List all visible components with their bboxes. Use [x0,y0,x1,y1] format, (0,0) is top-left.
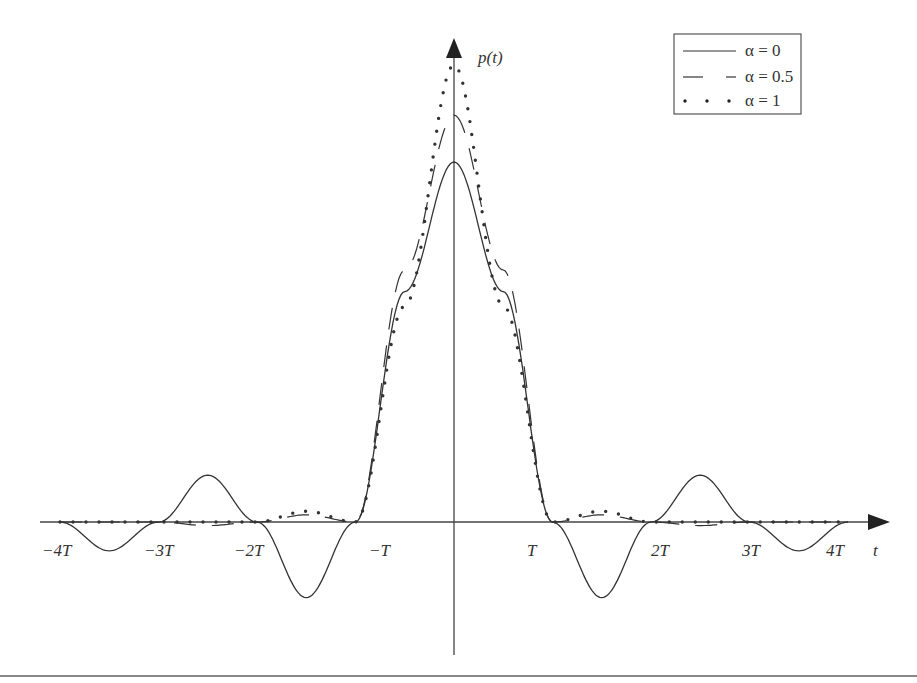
legend-label: α = 1 [745,91,781,110]
tick-label: 4T [826,541,846,560]
tick-label: T [527,541,538,560]
pulse-shape-chart: p(t) t −4T −3T −2T −T T 2T 3T 4T α = 0 α… [0,0,917,683]
tick-label: −4T [42,541,73,560]
legend-label: α = 0.5 [745,67,793,86]
x-tick-labels: −4T −3T −2T −T T 2T 3T 4T [42,541,846,560]
y-axis-arrow-icon [446,38,462,58]
x-axis-label: t [873,541,879,560]
legend: α = 0 α = 0.5 α = 1 [674,34,801,114]
tick-label: −2T [234,541,265,560]
tick-label: 3T [741,541,762,560]
tick-label: −3T [144,541,175,560]
tick-label: 2T [651,541,671,560]
axes [40,38,890,655]
y-axis-label: p(t) [477,48,503,67]
legend-dotted-line-icon [683,99,686,102]
tick-label: −T [369,541,391,560]
x-axis-arrow-icon [868,514,890,530]
legend-label: α = 0 [745,41,781,60]
